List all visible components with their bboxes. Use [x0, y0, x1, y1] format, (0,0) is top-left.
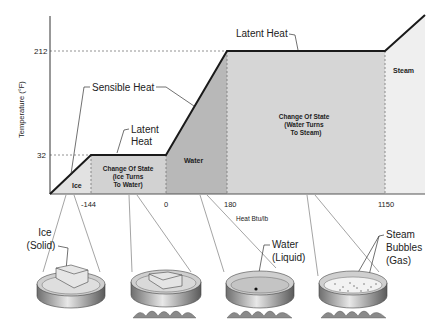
pan-water-liquid — [226, 271, 294, 318]
pan-label-steam-3: (Gas) — [386, 255, 411, 266]
label-boil-3: To Steam) — [291, 129, 322, 137]
pan-label-ice-2: (Solid) — [27, 240, 56, 251]
x-tick-1150: 1150 — [378, 200, 394, 209]
label-melt-1: Change Of State — [103, 165, 154, 173]
flame-icon — [321, 311, 386, 318]
x-tick-m144: -144 — [81, 200, 96, 209]
flame-icon — [133, 311, 196, 318]
label-boil-1: Change Of State — [279, 113, 330, 121]
pan-label-water-2: (Liquid) — [272, 252, 305, 263]
y-tick-32: 32 — [37, 151, 46, 160]
annotation-latent-heat-low-2: Heat — [131, 136, 152, 147]
label-water: Water — [184, 157, 203, 164]
x-tick-180: 180 — [224, 200, 237, 209]
label-melt-3: To Water) — [113, 181, 142, 189]
annotation-latent-heat-high: Latent Heat — [236, 28, 288, 39]
x-axis-label: Heat Btu/lb — [236, 215, 269, 222]
pan-label-steam-1: Steam — [386, 229, 415, 240]
annotation-sensible-heat: Sensible Heat — [92, 82, 154, 93]
annotation-latent-heat-low-1: Latent — [131, 124, 159, 135]
pan-steam-gas — [319, 271, 387, 318]
flame-icon — [227, 311, 292, 318]
pan-ice-solid — [37, 265, 105, 308]
pan-label-ice-1: Ice — [38, 227, 52, 238]
heat-diagram: 212 32 Temperature (°F) -144 0 180 1150 … — [0, 0, 437, 331]
pan-ice-melting — [131, 270, 201, 318]
x-tick-0: 0 — [164, 200, 168, 209]
label-melt-2: (Ice Turns — [113, 173, 144, 181]
y-tick-212: 212 — [34, 47, 48, 56]
label-ice: Ice — [72, 182, 82, 189]
region-water — [166, 51, 227, 194]
label-steam: Steam — [393, 67, 414, 74]
region-steam — [385, 15, 425, 194]
pan-label-water-1: Water — [272, 239, 299, 250]
y-axis-label: Temperature (°F) — [17, 81, 26, 138]
pan-label-steam-2: Bubbles — [386, 242, 422, 253]
label-boil-2: (Water Turns — [284, 121, 324, 129]
